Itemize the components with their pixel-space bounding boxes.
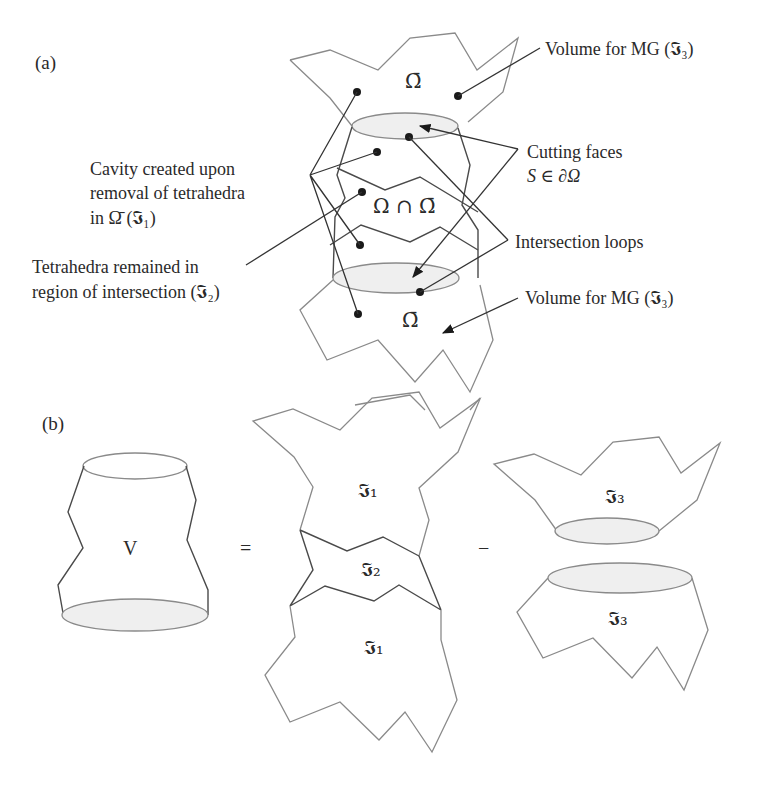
minus-sign: −	[478, 537, 489, 559]
panel-a-tag: (a)	[35, 52, 56, 74]
i3-bottom-label: 𝕴₃	[608, 607, 628, 629]
callout-volume-mg-bottom: Volume for MG (𝕴₃)	[525, 288, 673, 309]
callout-tetra-2: region of intersection (𝕴₂)	[32, 282, 220, 303]
region-label-bottom: Ω̄	[402, 308, 419, 332]
v-bottom-face	[62, 599, 208, 631]
composite-volume: 𝕴₁ 𝕴₂ 𝕴₁	[253, 392, 480, 752]
i2-label: 𝕴₂	[361, 558, 381, 580]
panel-a: (a) Ω̄ Ω ∩ Ω̄ Ω̄ Volume for MG (𝕴₃) Cutt…	[32, 33, 693, 410]
panel-b-tag: (b)	[42, 413, 64, 435]
leader-volume-top	[458, 48, 540, 96]
region-label-middle: Ω ∩ Ω̄	[373, 194, 436, 218]
i3-top-face	[555, 518, 659, 544]
leader-tetra	[246, 192, 362, 265]
callout-cavity-3: in Ω̄ (𝕴₁)	[90, 208, 156, 229]
lower-intersection-loop	[330, 225, 478, 250]
callout-cutting-faces-1: Cutting faces	[527, 142, 622, 162]
i3-bottom-outline	[517, 578, 708, 690]
bottom-cutting-face	[333, 263, 459, 293]
equals-sign: =	[240, 537, 251, 559]
i3-top-outline	[494, 437, 720, 531]
v-label: V	[123, 537, 138, 559]
i1-bottom-label: 𝕴₁	[364, 636, 384, 658]
i3-top-volume: 𝕴₃	[494, 437, 720, 544]
callout-intersection-loops: Intersection loops	[515, 232, 643, 252]
i1-top-label: 𝕴₁	[358, 479, 378, 501]
leader-volume-bottom	[443, 298, 518, 333]
i1-bottom-outline	[265, 606, 457, 752]
callout-cavity-2: removal of tetrahedra	[90, 183, 245, 203]
mesh-decomposition-diagram: (a) Ω̄ Ω ∩ Ω̄ Ω̄ Volume for MG (𝕴₃) Cutt…	[0, 0, 757, 785]
i3-bottom-face	[548, 563, 692, 593]
callout-volume-mg-top: Volume for MG (𝕴₃)	[545, 39, 693, 60]
leader-cutting-top	[420, 126, 518, 149]
i3-top-label: 𝕴₃	[605, 485, 625, 507]
leader-loop-top	[409, 137, 508, 240]
top-volume-outline	[290, 33, 518, 126]
bottom-volume-outline	[300, 280, 493, 392]
callout-tetra-1: Tetrahedra remained in	[32, 257, 199, 277]
callout-cavity-1: Cavity created upon	[90, 159, 235, 179]
volume-v: V	[58, 453, 208, 631]
i3-bottom-volume: 𝕴₃	[517, 563, 708, 690]
region-label-top: Ω̄	[405, 69, 422, 93]
i1-top-outline	[253, 392, 480, 556]
panel-b: (b) V = 𝕴₁ 𝕴₂ 𝕴₁ − 𝕴₃	[42, 392, 720, 752]
callout-cutting-faces-2: S ∈ ∂Ω	[527, 166, 580, 186]
top-cutting-face	[352, 113, 458, 139]
v-top-face	[83, 453, 187, 479]
